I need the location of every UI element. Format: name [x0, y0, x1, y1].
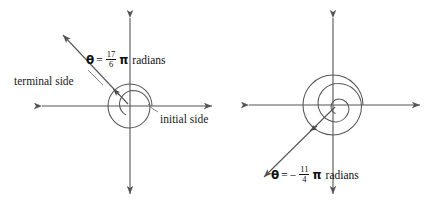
unit-label: radians	[132, 54, 165, 66]
angle-equation-right: θ = − 11 4 π radians	[271, 165, 359, 184]
angle-fraction: 17 6	[106, 50, 117, 69]
equals-sign: =	[281, 169, 288, 181]
fraction-numerator: 17	[106, 50, 117, 59]
left-panel-graphics	[0, 0, 218, 212]
terminal-side-leader	[88, 70, 103, 85]
angle-diagram-figure: θ = 17 6 π radians terminal side initial…	[0, 0, 435, 212]
equals-sign: =	[96, 54, 103, 66]
pi-symbol: π	[119, 53, 128, 67]
negative-angle-diagram-panel: θ = − 11 4 π radians	[217, 0, 435, 212]
angle-fraction: 11 4	[299, 165, 309, 184]
positive-angle-diagram-panel: θ = 17 6 π radians terminal side initial…	[0, 0, 218, 212]
initial-side-label: initial side	[160, 114, 208, 126]
angle-equation-left: θ = 17 6 π radians	[86, 50, 166, 69]
unit-label: radians	[326, 169, 359, 181]
fraction-denominator: 4	[301, 175, 307, 184]
minus-sign: −	[290, 169, 297, 181]
terminal-side-ray	[63, 35, 128, 104]
fraction-numerator: 11	[299, 165, 309, 174]
terminal-side-label: terminal side	[14, 76, 74, 88]
fraction-denominator: 6	[108, 60, 114, 69]
theta-symbol: θ	[271, 168, 279, 182]
theta-symbol: θ	[86, 53, 94, 67]
pi-symbol: π	[312, 168, 321, 182]
